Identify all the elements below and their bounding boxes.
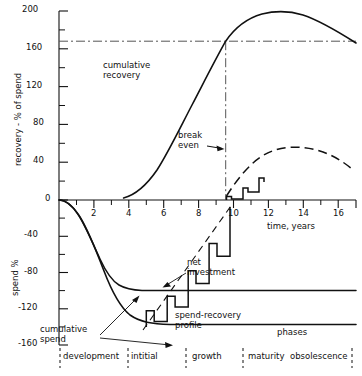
x-tick-4: 4 xyxy=(126,209,131,219)
x-axis-title: time, years xyxy=(267,222,315,232)
lower-y-tick--160: -160 xyxy=(18,339,37,349)
x-tick-8: 8 xyxy=(196,209,201,219)
phase-growth: growth xyxy=(192,352,222,362)
upper-y-tick-80: 80 xyxy=(33,118,44,128)
upper-y-tick-0: 0 xyxy=(45,194,50,204)
cumulative-recovery-curve xyxy=(124,12,356,198)
x-tick-2: 2 xyxy=(91,209,96,219)
upper-y-tick-40: 40 xyxy=(33,156,44,166)
net-investment-label: net investment xyxy=(187,258,235,278)
x-tick-6: 6 xyxy=(161,209,166,219)
break-even-arrowhead xyxy=(217,146,225,152)
phases-label: phases xyxy=(277,328,307,338)
upper-y-minor-ticks xyxy=(59,30,65,181)
lower-y-axis-title: spend % xyxy=(11,259,21,296)
x-tick-10: 10 xyxy=(228,209,239,219)
x-tick-12: 12 xyxy=(263,209,274,219)
lower-y-tick--120: -120 xyxy=(18,303,37,313)
break-even-label: break even xyxy=(178,131,202,151)
cumulative-spend-label: cumulative spend xyxy=(40,325,87,345)
upper-y-tick-200: 200 xyxy=(22,5,38,15)
x-major-ticks xyxy=(94,200,356,208)
spend-recovery-chart: 200 160 120 80 40 0 -40 -80 -120 -160 2 … xyxy=(0,0,362,376)
spend-recovery-profile-label: spend-recovery profile xyxy=(175,311,241,331)
cumulative-recovery-label: cumulative recovery xyxy=(103,61,150,81)
upper-y-axis-title: recovery - % of spend xyxy=(14,73,24,166)
cumulative-spend-arrowhead-b xyxy=(165,342,173,348)
lower-y-tick--40: -40 xyxy=(24,230,38,240)
cumulative-spend-leader-b xyxy=(100,338,170,345)
x-tick-14: 14 xyxy=(298,209,309,219)
upper-y-tick-160: 160 xyxy=(26,43,42,53)
net-investment-sawtooth-upper xyxy=(227,178,265,200)
upper-y-tick-120: 120 xyxy=(26,81,42,91)
phase-initial: intitial xyxy=(131,352,158,362)
x-tick-16: 16 xyxy=(333,209,344,219)
lower-y-tick--80: -80 xyxy=(24,267,38,277)
phase-maturity: maturity xyxy=(248,352,284,362)
phase-development: development xyxy=(63,352,119,362)
phase-obsolescence: obsolescence xyxy=(290,352,347,362)
